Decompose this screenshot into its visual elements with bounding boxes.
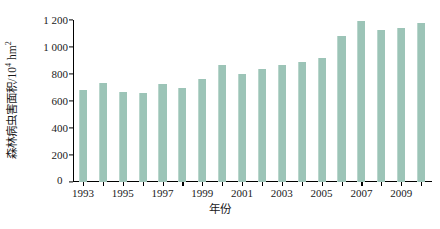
x-tick-label-2005: 2005: [311, 188, 333, 199]
bar-2002: [258, 69, 266, 182]
x-tick-mark-2003: [282, 182, 283, 186]
x-tick-mark-2005: [322, 182, 323, 186]
x-tick-mark-1993: [83, 182, 84, 186]
x-tick-label-2003: 2003: [271, 188, 293, 199]
y-tick-label-0: 0: [57, 175, 63, 186]
plot-area: 2004006008001 0001 200: [73, 20, 431, 182]
bar-2001: [238, 74, 246, 182]
y-axis-title: 森林病虫害面积/104 hm2: [4, 7, 22, 193]
y-tick-mark: [69, 127, 73, 128]
y-tick-label-600: 600: [52, 96, 69, 107]
y-axis-unit-exponent: 2: [4, 41, 13, 45]
y-tick-label-800: 800: [52, 69, 69, 80]
x-tick-mark-2000: [222, 182, 223, 186]
y-tick-label-400: 400: [52, 123, 69, 134]
x-tick-mark-1994: [103, 182, 104, 186]
bar-2010: [417, 23, 425, 182]
bar-1998: [178, 88, 186, 182]
bar-1995: [119, 92, 127, 182]
x-tick-label-1997: 1997: [152, 188, 174, 199]
bar-1996: [139, 93, 147, 182]
bar-2009: [397, 28, 405, 182]
x-tick-mark-1995: [123, 182, 124, 186]
bar-2007: [357, 21, 365, 182]
x-tick-mark-1998: [182, 182, 183, 186]
bar-2006: [337, 36, 345, 182]
bar-2004: [298, 62, 306, 182]
x-tick-mark-1999: [202, 182, 203, 186]
x-tick-mark-2010: [421, 182, 422, 186]
x-tick-label-1995: 1995: [112, 188, 134, 199]
y-tick-label-1200: 1 200: [43, 15, 68, 26]
x-tick-mark-2006: [342, 182, 343, 186]
x-tick-label-1993: 1993: [72, 188, 94, 199]
bar-2005: [318, 58, 326, 182]
x-tick-mark-2007: [361, 182, 362, 186]
bar-2003: [278, 65, 286, 182]
bar-2000: [218, 65, 226, 182]
x-tick-label-2001: 2001: [231, 188, 253, 199]
x-tick-mark-1997: [163, 182, 164, 186]
bar-chart-figure: 森林病虫害面积/104 hm2 0 2004006008001 0001 200…: [0, 0, 440, 229]
x-tick-mark-2009: [401, 182, 402, 186]
x-tick-mark-2002: [262, 182, 263, 186]
x-tick-label-2009: 2009: [390, 188, 412, 199]
bar-2008: [377, 30, 385, 182]
x-tick-mark-1996: [143, 182, 144, 186]
y-axis-exponent: 4: [4, 63, 13, 67]
x-tick-label-1999: 1999: [191, 188, 213, 199]
y-tick-label-200: 200: [52, 150, 69, 161]
y-tick-mark: [69, 73, 73, 74]
y-tick-mark: [69, 154, 73, 155]
x-tick-mark-2001: [242, 182, 243, 186]
y-axis-title-text: 森林病虫害面积/104 hm2: [7, 41, 19, 158]
bar-1994: [99, 83, 107, 182]
bar-1997: [158, 84, 166, 182]
y-tick-mark: [69, 19, 73, 20]
bar-1993: [79, 90, 87, 182]
y-tick-label-1000: 1 000: [43, 42, 68, 53]
x-tick-mark-2004: [302, 182, 303, 186]
x-tick-label-2007: 2007: [350, 188, 372, 199]
y-tick-mark: [69, 100, 73, 101]
bar-1999: [198, 79, 206, 182]
x-axis-title: 年份: [0, 204, 440, 216]
x-tick-mark-2008: [381, 182, 382, 186]
y-tick-mark: [69, 46, 73, 47]
